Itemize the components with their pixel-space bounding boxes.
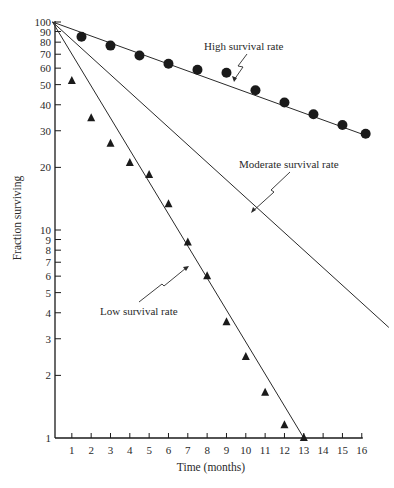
low-survival-point xyxy=(126,158,134,166)
high-survival-rate-line xyxy=(53,22,366,135)
x-tick-label: 12 xyxy=(279,444,290,456)
y-tick-label: 20 xyxy=(40,161,52,173)
low-survival-point xyxy=(106,139,114,147)
y-tick-label: 10 xyxy=(40,224,52,236)
low-survival-point xyxy=(261,388,269,396)
data-points xyxy=(68,32,371,441)
y-tick-label: 5 xyxy=(46,287,52,299)
high-survival-point xyxy=(76,32,86,42)
y-tick-label: 4 xyxy=(46,307,52,319)
x-tick-label: 13 xyxy=(298,444,310,456)
high-survival-point xyxy=(105,41,115,51)
high-survival-point xyxy=(134,51,144,61)
x-tick-label: 3 xyxy=(108,444,114,456)
high-survival-point xyxy=(337,120,347,130)
axes xyxy=(55,21,363,438)
y-tick-label: 8 xyxy=(46,244,52,256)
y-tick-label: 70 xyxy=(40,48,52,60)
x-tick-label: 2 xyxy=(88,444,94,456)
y-axis-ticks: 123456789102030405060708090100 xyxy=(35,16,62,444)
y-tick-label: 50 xyxy=(40,79,52,91)
low-survival-point xyxy=(242,352,250,360)
high-survival-point xyxy=(250,85,260,95)
moderate-survival-label: Moderate survival rate xyxy=(239,158,339,170)
low-survival-point xyxy=(280,420,288,428)
x-tick-label: 14 xyxy=(318,444,330,456)
y-tick-label: 3 xyxy=(46,333,52,345)
low-survival-point xyxy=(145,170,153,178)
low-survival-label: Low survival rate xyxy=(100,305,178,317)
high-survival-label: High survival rate xyxy=(204,40,284,52)
x-tick-label: 16 xyxy=(356,444,368,456)
moderate-survival-rate-line xyxy=(53,22,389,327)
low-survival-pointer-icon xyxy=(139,268,186,302)
low-survival-point xyxy=(222,317,230,325)
x-tick-label: 15 xyxy=(337,444,349,456)
high-survival-point xyxy=(361,129,371,139)
y-axis-title: Fraction surviving xyxy=(11,175,24,260)
x-tick-label: 6 xyxy=(166,444,172,456)
x-tick-label: 9 xyxy=(224,444,230,456)
high-survival-point xyxy=(308,109,318,119)
x-tick-label: 1 xyxy=(69,444,75,456)
annotations: High survival rate Moderate survival rat… xyxy=(100,40,339,317)
low-survival-point xyxy=(87,113,95,121)
y-tick-label: 1 xyxy=(46,432,52,444)
high-survival-point xyxy=(192,65,202,75)
y-tick-label: 80 xyxy=(40,36,52,48)
low-survival-point xyxy=(68,76,76,84)
x-tick-label: 11 xyxy=(260,444,271,456)
high-survival-point xyxy=(279,98,289,108)
high-survival-pointer-icon xyxy=(234,54,247,80)
low-survival-point xyxy=(164,199,172,207)
moderate-survival-arrowhead-icon xyxy=(251,207,256,213)
y-tick-label: 2 xyxy=(46,369,52,381)
x-tick-label: 8 xyxy=(204,444,210,456)
low-survival-point xyxy=(203,271,211,279)
y-tick-label: 60 xyxy=(40,62,52,74)
fit-lines xyxy=(53,22,389,438)
survival-chart: 123456789102030405060708090100 123456789… xyxy=(0,0,394,488)
x-tick-label: 4 xyxy=(127,444,133,456)
x-tick-label: 7 xyxy=(185,444,191,456)
low-survival-rate-line xyxy=(53,22,304,438)
x-tick-label: 5 xyxy=(146,444,152,456)
x-axis-title: Time (months) xyxy=(177,461,245,474)
high-survival-point xyxy=(221,68,231,78)
high-survival-point xyxy=(163,59,173,69)
x-tick-label: 10 xyxy=(240,444,252,456)
y-tick-label: 100 xyxy=(35,16,52,28)
x-axis-ticks: 12345678910111213141516 xyxy=(69,433,368,456)
y-tick-label: 7 xyxy=(46,256,52,268)
moderate-survival-pointer-icon xyxy=(253,172,290,211)
y-tick-label: 6 xyxy=(46,270,52,282)
y-tick-label: 40 xyxy=(40,99,52,111)
y-tick-label: 30 xyxy=(40,125,52,137)
